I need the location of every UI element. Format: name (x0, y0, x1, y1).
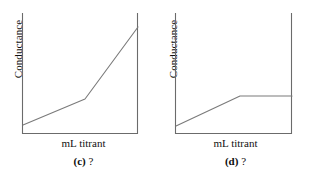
panel-d: Conductance mL titrant (d) ? (155, 0, 310, 178)
panel-c: Conductance mL titrant (c) ? (0, 0, 155, 178)
caption-d: (d) ? (158, 155, 310, 167)
caption-question-d: ? (241, 155, 246, 167)
plot-area-d (155, 0, 310, 140)
conductance-curve-c (23, 27, 138, 125)
caption-c: (c) ? (6, 155, 161, 167)
x-axis-label-d: mL titrant (158, 137, 310, 149)
titration-conductance-figure: Conductance mL titrant (c) ? Conductance (0, 0, 310, 178)
conductance-curve-d (176, 96, 292, 126)
caption-tag-d: (d) (225, 155, 238, 167)
plot-area-c (0, 0, 155, 140)
caption-tag-c: (c) (74, 155, 86, 167)
caption-question-c: ? (89, 155, 94, 167)
x-axis-label-c: mL titrant (6, 137, 161, 149)
